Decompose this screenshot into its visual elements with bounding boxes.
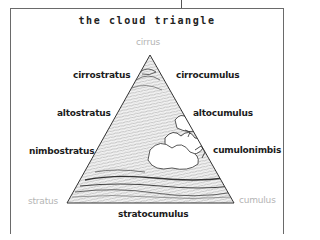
label-cumulonimbis: cumulonimbis xyxy=(213,145,281,156)
label-cirrus: cirrus xyxy=(136,37,160,48)
label-stratus: stratus xyxy=(28,196,58,207)
label-cumulus: cumulus xyxy=(239,195,276,206)
label-cirrocumulus: cirrocumulus xyxy=(176,70,239,81)
label-altostratus: altostratus xyxy=(57,108,111,119)
label-cirrostratus: cirrostratus xyxy=(73,70,130,81)
label-stratocumulus: stratocumulus xyxy=(118,209,188,220)
label-nimbostratus: nimbostratus xyxy=(29,146,94,157)
label-altocumulus: altocumulus xyxy=(193,108,253,119)
